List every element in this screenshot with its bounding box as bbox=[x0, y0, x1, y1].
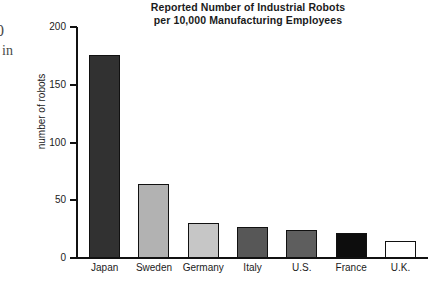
y-axis-tick bbox=[70, 199, 77, 201]
bar-sweden bbox=[138, 184, 169, 258]
x-axis-label-japan: Japan bbox=[80, 262, 129, 273]
y-axis-tick bbox=[70, 84, 77, 86]
bar-u-s bbox=[286, 230, 317, 258]
y-axis-tick-label: 200 bbox=[49, 22, 66, 32]
y-axis-tick bbox=[70, 142, 77, 144]
plot-area: number of robots 200150100500 JapanSwede… bbox=[0, 0, 428, 289]
x-axis-label-u-s: U.S. bbox=[277, 262, 326, 273]
x-axis-label-u-k: U.K. bbox=[376, 262, 425, 273]
y-axis-title: number of robots bbox=[36, 62, 47, 162]
bar-germany bbox=[188, 223, 219, 258]
x-axis-label-germany: Germany bbox=[179, 262, 228, 273]
y-axis-tick bbox=[70, 257, 77, 259]
y-axis-tick bbox=[70, 26, 77, 28]
y-axis-tick-label: 100 bbox=[49, 138, 66, 148]
bar-u-k bbox=[385, 241, 416, 258]
x-axis-label-italy: Italy bbox=[228, 262, 277, 273]
y-axis-tick-label: 50 bbox=[55, 195, 66, 205]
y-axis-tick-label: 150 bbox=[49, 80, 66, 90]
bar-italy bbox=[237, 227, 268, 258]
chart-page: 0 in Reported Number of Industrial Robot… bbox=[0, 0, 428, 289]
y-axis-tick-label: 0 bbox=[60, 253, 66, 263]
bar-france bbox=[336, 233, 367, 258]
x-axis-label-france: France bbox=[327, 262, 376, 273]
bar-japan bbox=[89, 55, 120, 258]
x-axis-label-sweden: Sweden bbox=[129, 262, 178, 273]
